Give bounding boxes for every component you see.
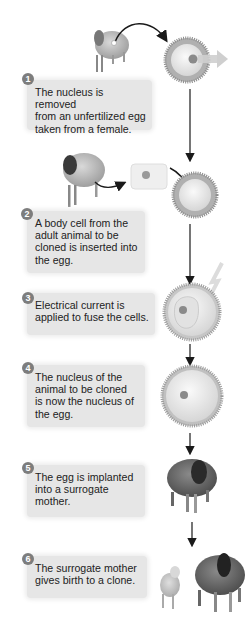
step-4-text: The nucleus of the animal to be cloned i… — [35, 371, 134, 420]
step-2-text: A body cell from the adult animal to be … — [35, 217, 137, 266]
step-6-box: The surrogate mother gives birth to a cl… — [27, 556, 147, 598]
step-1-box: The nucleus is removed from an unfertili… — [27, 80, 152, 130]
step-2-box: A body cell from the adult animal to be … — [27, 211, 145, 273]
step-3-badge: 3 — [22, 292, 34, 304]
step-2-badge: 2 — [21, 208, 33, 220]
egg-with-new-nucleus-icon — [162, 366, 222, 426]
surrogate-sheep-icon — [167, 459, 217, 513]
female-sheep-icon — [94, 30, 129, 72]
step-1-text: The nucleus is removed from an unfertili… — [35, 86, 146, 135]
step-4-box: The nucleus of the animal to be cloned i… — [27, 365, 145, 427]
step-5-box: The egg is implanted into a surrogate mo… — [27, 465, 145, 517]
step-5-badge: 5 — [22, 462, 34, 474]
step-1-badge: 1 — [22, 73, 34, 85]
lamb-clone-icon — [160, 566, 180, 609]
step-3-text: Electrical current is applied to fuse th… — [35, 299, 149, 323]
step-6-text: The surrogate mother gives birth to a cl… — [35, 562, 137, 586]
step-3-box: Electrical current is applied to fuse th… — [27, 293, 155, 335]
fused-cell-icon — [164, 284, 220, 340]
curved-arrow-icon — [95, 182, 124, 187]
step-6-badge: 6 — [22, 553, 34, 565]
surrogate-mother-sheep-icon — [195, 553, 245, 612]
enucleated-egg-icon — [173, 173, 217, 217]
adult-sheep-icon — [63, 153, 105, 207]
step-4-badge: 4 — [22, 362, 34, 374]
step-5-text: The egg is implanted into a surrogate mo… — [35, 471, 133, 507]
body-cell-icon — [131, 164, 167, 189]
